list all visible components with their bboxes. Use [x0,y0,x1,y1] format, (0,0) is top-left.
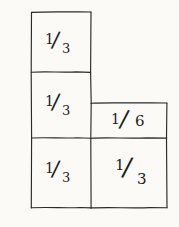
cell-label-left-middle: 1 / 3 [45,94,79,120]
denominator-left-bottom: 3 [62,171,70,184]
cell-label-right-top: 1 / 6 [111,111,151,135]
denominator-left-top: 3 [62,42,70,55]
left-divider-1 [31,72,90,73]
slash-left-top: / [51,29,61,52]
top-edge [32,12,92,13]
right-column-top-edge [91,103,167,104]
cell-label-left-bottom: 1 / 3 [45,161,79,187]
slash-left-bottom: / [51,158,61,181]
denominator-left-middle: 3 [62,104,70,117]
denominator-right-bottom: 3 [137,172,147,187]
left-column-right-edge-upper [91,12,92,103]
cell-label-left-top: 1 / 3 [45,32,79,58]
right-column-right-edge [167,103,168,208]
fraction-diagram-canvas: 1 / 3 1 / 3 1 / 3 1 / 6 1 / 3 [0,0,179,227]
rectangle-grid-drawing [0,0,179,227]
denominator-right-top: 6 [135,114,145,129]
cell-label-right-bottom: 1 / 3 [115,158,155,190]
slash-left-middle: / [51,91,61,114]
